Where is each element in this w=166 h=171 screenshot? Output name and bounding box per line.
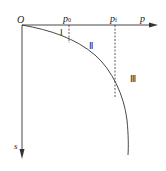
p0-subscript: 0: [68, 17, 71, 23]
pf-subscript: f: [115, 17, 117, 23]
region-2-label: Ⅱ: [89, 42, 93, 51]
region-1-label: Ⅰ: [60, 29, 63, 38]
pf-label: pf: [110, 14, 117, 24]
diagram-canvas: [0, 0, 166, 171]
s-axis-arrow-icon: [20, 149, 25, 159]
s-axis-label: s: [14, 142, 18, 151]
p-axis-arrow-icon: [149, 23, 158, 28]
region-3-label: Ⅲ: [130, 75, 136, 84]
origin-label: O: [17, 15, 24, 25]
p-axis-label: p: [140, 14, 145, 24]
p0-label: p0: [63, 14, 71, 24]
load-settlement-curve: [22, 25, 128, 155]
